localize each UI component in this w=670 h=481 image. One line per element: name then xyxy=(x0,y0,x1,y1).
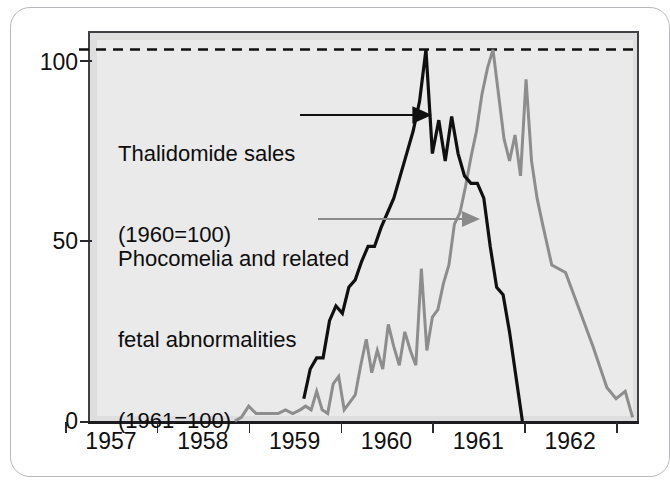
annotation-phocomelia-line2: fetal abnormalities xyxy=(118,326,349,353)
annotation-thalidomide-line1: Thalidomide sales xyxy=(118,140,295,167)
annotation-phocomelia-line1: Phocomelia and related xyxy=(118,245,349,272)
annotation-phocomelia-line3: (1961=100) xyxy=(118,407,349,434)
annotation-phocomelia: Phocomelia and related fetal abnormaliti… xyxy=(118,191,349,481)
